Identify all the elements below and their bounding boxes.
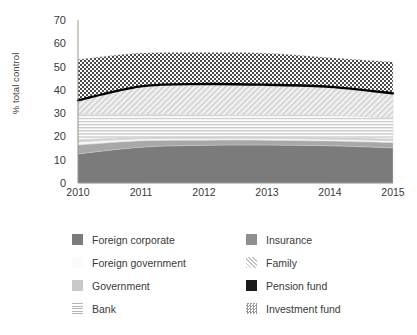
chart-legend: Foreign corporateForeign governmentGover… bbox=[0, 228, 417, 335]
x-tick-2013: 2013 bbox=[247, 186, 287, 198]
legend-swatch-solid-near-white bbox=[72, 257, 83, 268]
chart-canvas bbox=[0, 0, 417, 205]
legend-item-pension-fund[interactable]: Pension fund bbox=[246, 274, 341, 297]
legend-label: Government bbox=[92, 280, 150, 292]
area-series-foreign-corporate bbox=[78, 145, 393, 183]
legend-swatch-diagonal-hatch bbox=[246, 257, 257, 268]
legend-item-foreign-corporate[interactable]: Foreign corporate bbox=[72, 228, 186, 251]
legend-label: Pension fund bbox=[266, 280, 327, 292]
legend-item-government[interactable]: Government bbox=[72, 274, 186, 297]
stacked-areas bbox=[78, 52, 393, 183]
legend-item-family[interactable]: Family bbox=[246, 251, 341, 274]
legend-label: Foreign corporate bbox=[92, 234, 175, 246]
legend-swatch-solid-light-gray bbox=[72, 280, 83, 291]
legend-label: Investment fund bbox=[266, 303, 341, 315]
legend-swatch-checkerboard bbox=[246, 303, 257, 314]
legend-column-left: Foreign corporateForeign governmentGover… bbox=[72, 228, 186, 320]
x-tick-2010: 2010 bbox=[58, 186, 98, 198]
legend-swatch-solid-black bbox=[246, 280, 257, 291]
legend-column-right: InsuranceFamilyPension fundInvestment fu… bbox=[246, 228, 341, 320]
x-tick-2011: 2011 bbox=[121, 186, 161, 198]
area-series-bank bbox=[78, 114, 393, 139]
legend-swatch-solid-mid-gray bbox=[246, 234, 257, 245]
legend-label: Family bbox=[266, 257, 297, 269]
legend-item-foreign-government[interactable]: Foreign government bbox=[72, 251, 186, 274]
legend-label: Insurance bbox=[266, 234, 312, 246]
legend-item-insurance[interactable]: Insurance bbox=[246, 228, 341, 251]
legend-label: Bank bbox=[92, 303, 116, 315]
legend-label: Foreign government bbox=[92, 257, 186, 269]
legend-swatch-solid-dark-gray bbox=[72, 234, 83, 245]
legend-swatch-horizontal-lines bbox=[72, 303, 83, 314]
legend-item-bank[interactable]: Bank bbox=[72, 297, 186, 320]
stacked-area-chart-figure: % total control 010203040506070 bbox=[0, 0, 417, 335]
legend-item-investment-fund[interactable]: Investment fund bbox=[246, 297, 341, 320]
x-tick-2014: 2014 bbox=[310, 186, 350, 198]
x-tick-2015: 2015 bbox=[373, 186, 413, 198]
x-tick-2012: 2012 bbox=[184, 186, 224, 198]
plot-area: % total control 010203040506070 bbox=[0, 0, 417, 205]
